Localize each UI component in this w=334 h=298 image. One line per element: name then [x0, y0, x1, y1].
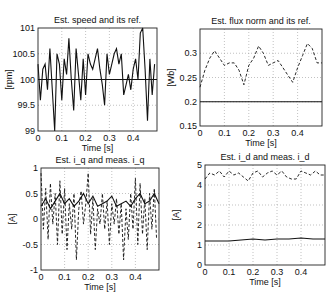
- chart-title: Est. flux norm and its ref.: [211, 16, 311, 26]
- figure: 00.10.20.30.49999.5100100.5101Est. speed…: [0, 0, 334, 298]
- x-tick-label: 0.2: [79, 133, 92, 143]
- x-tick-label: 0.4: [295, 267, 308, 277]
- y-tick-label: 100: [20, 75, 35, 85]
- x-tick-label: 0.2: [247, 267, 260, 277]
- x-tick-label: 0.2: [82, 272, 95, 282]
- y-axis-label: [rpm]: [4, 69, 14, 90]
- x-tick-label: 0.1: [58, 272, 71, 282]
- y-tick-label: 4: [197, 180, 202, 190]
- x-axis-label: Time [s]: [84, 282, 116, 292]
- y-tick-label: 3: [197, 200, 202, 210]
- y-tick-label: 0: [197, 260, 202, 270]
- chart-title: Est. i_d and meas. i_d: [220, 152, 309, 162]
- subplot-3: 00.10.20.30.4012345Est. i_d and meas. i_…: [171, 152, 325, 287]
- y-tick-label: -0.5: [22, 240, 38, 250]
- y-tick-label: 101: [20, 23, 35, 33]
- subplot-1: 00.10.20.30.40.150.20.250.3Est. flux nor…: [166, 16, 322, 148]
- x-tick-label: 0.1: [218, 128, 231, 138]
- y-axis-label: [A]: [171, 209, 181, 220]
- subplot-0: 00.10.20.30.49999.5100100.5101Est. speed…: [4, 15, 157, 153]
- y-tick-label: 0.5: [25, 189, 38, 199]
- plot-area: [205, 165, 325, 265]
- x-axis-label: Time [s]: [249, 277, 281, 287]
- x-tick-label: 0.4: [291, 128, 304, 138]
- x-tick-label: 0: [202, 267, 207, 277]
- x-tick-label: 0.1: [223, 267, 236, 277]
- chart-title: Est. i_q and meas. i_q: [55, 155, 144, 165]
- x-axis-label: Time [s]: [245, 138, 277, 148]
- x-tick-label: 0.1: [56, 133, 69, 143]
- chart-title: Est. speed and its ref.: [54, 15, 141, 25]
- x-tick-label: 0: [197, 128, 202, 138]
- y-tick-label: 0.25: [179, 73, 197, 83]
- y-tick-label: 0: [33, 214, 38, 224]
- figure-canvas: 00.10.20.30.49999.5100100.5101Est. speed…: [0, 0, 334, 298]
- y-tick-label: -1: [30, 265, 38, 275]
- x-tick-label: 0: [35, 133, 40, 143]
- y-axis-label: [Wb]: [166, 68, 176, 87]
- y-tick-label: 0.2: [184, 97, 197, 107]
- y-tick-label: 0.15: [179, 121, 197, 131]
- y-tick-label: 100.5: [12, 49, 35, 59]
- x-tick-label: 0.3: [103, 133, 116, 143]
- y-tick-label: 0.3: [184, 48, 197, 58]
- y-tick-label: 2: [197, 220, 202, 230]
- x-tick-label: 0.3: [271, 267, 284, 277]
- y-axis-label: [A]: [7, 213, 17, 224]
- y-tick-label: 99: [25, 126, 35, 136]
- x-tick-label: 0.3: [267, 128, 280, 138]
- y-tick-label: 1: [33, 163, 38, 173]
- x-tick-label: 0.4: [129, 272, 142, 282]
- x-tick-label: 0.4: [127, 133, 140, 143]
- y-tick-label: 99.5: [17, 100, 35, 110]
- y-tick-label: 5: [197, 160, 202, 170]
- x-tick-label: 0.3: [106, 272, 119, 282]
- x-tick-label: 0: [38, 272, 43, 282]
- x-axis-label: Time [s]: [82, 143, 114, 153]
- x-tick-label: 0.2: [243, 128, 256, 138]
- y-tick-label: 1: [197, 240, 202, 250]
- subplot-2: 00.10.20.30.4-1-0.500.51Est. i_q and mea…: [7, 155, 159, 292]
